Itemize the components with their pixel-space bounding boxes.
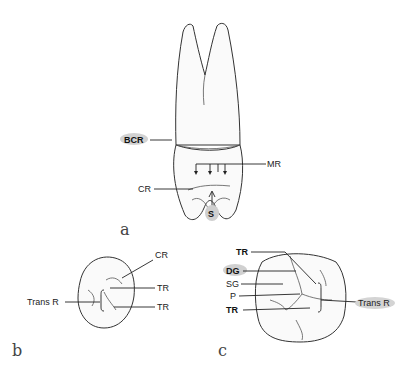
label-cr-b: CR <box>155 250 168 260</box>
tooth-roots <box>176 23 240 145</box>
panel-label-c: c <box>218 341 227 360</box>
label-cr-a: CR <box>138 184 151 194</box>
label-p: P <box>230 291 236 301</box>
label-dg: DG <box>226 266 240 276</box>
label-bcr: BCR <box>124 135 144 145</box>
label-mr: MR <box>267 159 281 169</box>
label-sg: SG <box>226 279 239 289</box>
label-tr-b2: TR <box>157 302 169 312</box>
label-s: S <box>208 209 214 219</box>
dental-morphology-diagram: BCR MR CR S a CR TR Trans R T <box>0 0 410 373</box>
label-trans-r-c: Trans R <box>358 298 390 308</box>
panel-label-b: b <box>12 341 22 360</box>
label-trans-r-b: Trans R <box>27 297 59 307</box>
label-tr-b1: TR <box>157 283 169 293</box>
panel-c-tooth <box>255 254 346 342</box>
occlusal-outline-b <box>78 257 134 328</box>
label-tr-c2: TR <box>226 305 238 315</box>
panel-b-tooth <box>78 257 134 328</box>
panel-label-a: a <box>120 220 130 239</box>
label-tr-c1: TR <box>236 247 248 257</box>
panel-a-tooth <box>174 23 243 219</box>
